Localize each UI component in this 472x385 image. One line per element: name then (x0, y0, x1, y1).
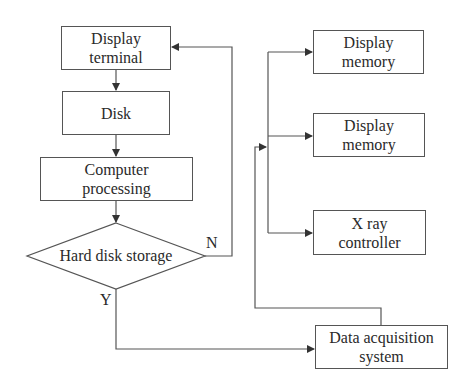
node-label: Disk (101, 104, 131, 123)
branch-label-no: N (206, 234, 218, 252)
node-disk: Disk (62, 91, 170, 135)
node-hard-disk-storage: Hard disk storage (27, 246, 205, 265)
node-label: Display (344, 33, 394, 52)
node-label: Display (344, 116, 394, 135)
node-label: Computer (85, 160, 149, 179)
node-display-memory-2: Display memory (313, 113, 425, 157)
node-label: memory (342, 52, 395, 71)
node-label: X ray (352, 214, 388, 233)
node-display-terminal: Display terminal (61, 26, 171, 70)
node-label: Display (91, 29, 141, 48)
arrow-yes-to-acquisition (116, 289, 314, 349)
node-data-acquisition-system: Data acquisition system (315, 325, 448, 369)
node-computer-processing: Computer processing (40, 157, 193, 201)
node-label: controller (338, 233, 400, 252)
node-display-memory-1: Display memory (313, 30, 424, 74)
branch-label-yes: Y (100, 291, 112, 309)
node-label: system (359, 347, 403, 366)
node-label: Data acquisition (329, 328, 433, 347)
arrow-no-loop (172, 47, 232, 256)
node-xray-controller: X ray controller (313, 210, 426, 255)
node-label: terminal (89, 48, 142, 67)
node-label: processing (82, 179, 150, 198)
node-label: memory (342, 135, 395, 154)
